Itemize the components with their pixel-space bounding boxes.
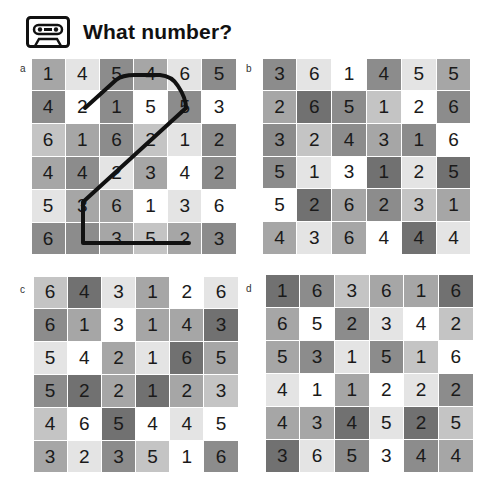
grid-cell: 2 (102, 375, 135, 407)
grid-cell: 1 (168, 124, 201, 156)
grid-cell: 1 (367, 91, 401, 123)
grid-cell: 1 (32, 59, 65, 91)
grid-cell: 4 (136, 408, 169, 440)
grid-cell: 1 (404, 275, 438, 307)
grid-cell: 6 (168, 59, 201, 91)
grid-cell: 1 (136, 375, 169, 407)
grid-cell: 6 (370, 275, 404, 307)
grid-cell: 2 (402, 91, 436, 123)
grid-cell: 1 (134, 190, 167, 222)
grid-cell: 6 (68, 408, 101, 440)
panel-label-a: a (20, 63, 26, 74)
grid-cell: 1 (437, 189, 471, 221)
grid-cell: 4 (66, 157, 99, 189)
grid-cell: 1 (404, 341, 438, 373)
grid-cell: 3 (202, 91, 235, 123)
grid-cell: 2 (404, 407, 438, 439)
grid-cell: 2 (297, 124, 331, 156)
grid-cell (66, 223, 99, 255)
grid-cell: 5 (263, 157, 297, 189)
grid-cell: 2 (263, 91, 297, 123)
grid-cell: 2 (68, 375, 101, 407)
number-grid-d: 163616652342531516411222434525365344 (265, 274, 473, 472)
grid-cell: 2 (202, 157, 235, 189)
grid-cell: 2 (168, 223, 201, 255)
grid-cell: 5 (437, 59, 471, 91)
grid-cell: 6 (437, 124, 471, 156)
grid-cell: 4 (170, 309, 203, 341)
grid-cell: 2 (102, 342, 135, 374)
number-grid-b: 361455265126324316513125526231436444 (262, 58, 471, 254)
grid-cell: 2 (134, 124, 167, 156)
grid-cell: 5 (168, 91, 201, 123)
grid-cell: 3 (34, 441, 67, 473)
grid-cell: 3 (102, 309, 135, 341)
grid-cell: 1 (136, 342, 169, 374)
grid-cell: 4 (367, 59, 401, 91)
grid-cell: 3 (335, 275, 369, 307)
grid-cell: 4 (335, 407, 369, 439)
grid-cell: 6 (32, 124, 65, 156)
grid-cell: 1 (68, 309, 101, 341)
grid-cell: 6 (437, 91, 471, 123)
grid-cell: 2 (297, 189, 331, 221)
grid-cell: 3 (66, 190, 99, 222)
grid-cell: 1 (335, 374, 369, 406)
grid-cell: 3 (100, 223, 133, 255)
grid-cell: 4 (34, 408, 67, 440)
cassette-tape-icon (26, 16, 70, 48)
grid-cell: 4 (367, 222, 401, 254)
grid-cell: 4 (68, 342, 101, 374)
grid-cell: 5 (370, 341, 404, 373)
grid-cell: 3 (202, 223, 235, 255)
panel-label-d: d (246, 283, 252, 294)
grid-cell: 6 (300, 275, 334, 307)
grid-cell: 2 (66, 91, 99, 123)
grid-cell: 5 (402, 59, 436, 91)
grid-cell: 5 (204, 408, 237, 440)
grid-cell: 3 (204, 375, 237, 407)
grid-cell: 2 (100, 157, 133, 189)
grid-cell: 2 (170, 277, 203, 309)
grid-cell: 6 (332, 222, 366, 254)
grid-cell: 2 (439, 308, 473, 340)
grid-cell: 6 (297, 91, 331, 123)
grid-cell: 3 (332, 157, 366, 189)
grid-cell: 6 (32, 223, 65, 255)
grid-cell: 5 (102, 408, 135, 440)
grid-cell: 6 (297, 59, 331, 91)
grid-cell: 3 (168, 190, 201, 222)
grid-cell: 3 (370, 308, 404, 340)
grid-cell: 3 (297, 222, 331, 254)
grid-cell: 4 (263, 222, 297, 254)
grid-cell: 5 (32, 190, 65, 222)
grid-cell: 5 (34, 375, 67, 407)
grid-cell: 3 (370, 440, 404, 472)
grid-cell: 6 (170, 342, 203, 374)
grid-cell: 6 (439, 275, 473, 307)
grid-cell: 1 (66, 124, 99, 156)
grid-cell: 1 (266, 275, 300, 307)
grid-cell: 4 (266, 374, 300, 406)
grid-cell: 1 (136, 309, 169, 341)
grid-cell: 5 (100, 59, 133, 91)
grid-cell: 4 (32, 91, 65, 123)
grid-cell: 2 (68, 441, 101, 473)
grid-cell: 2 (335, 308, 369, 340)
grid-cell: 1 (136, 277, 169, 309)
grid-cell: 4 (404, 440, 438, 472)
grid-cell: 3 (367, 124, 401, 156)
header: What number? (26, 16, 232, 48)
grid-cell: 1 (100, 91, 133, 123)
grid-cell: 5 (134, 223, 167, 255)
panel-label-c: c (20, 284, 25, 295)
grid-cell: 1 (402, 124, 436, 156)
grid-cell: 1 (170, 441, 203, 473)
grid-cell: 6 (202, 190, 235, 222)
grid-cell: 4 (266, 407, 300, 439)
grid-cell: 3 (263, 59, 297, 91)
grid-cell: 4 (66, 59, 99, 91)
number-grid-a: 14546542155361621244234253613663523 (31, 58, 236, 255)
grid-cell: 5 (263, 189, 297, 221)
grid-cell: 5 (136, 441, 169, 473)
